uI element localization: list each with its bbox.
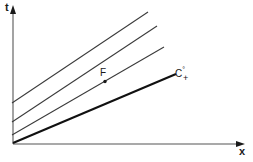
point-markers-group xyxy=(103,80,106,83)
time-axis-label: t xyxy=(5,2,9,13)
physics-diagram: t x F C°+ xyxy=(0,0,253,162)
position-axis-label: x xyxy=(239,146,245,157)
characteristic-line-4-bold xyxy=(13,74,176,143)
point-c-superscript: ° xyxy=(182,66,185,73)
characteristic-lines-group xyxy=(12,12,176,143)
point-f-marker xyxy=(103,80,106,83)
characteristic-line-2 xyxy=(12,26,157,122)
point-c-subscript: + xyxy=(183,74,188,83)
time-axis-arrowhead xyxy=(10,5,16,14)
characteristic-line-3 xyxy=(12,47,164,135)
diagram-canvas xyxy=(0,0,253,162)
point-c-label: C°+ xyxy=(175,67,185,79)
point-f-label: F xyxy=(100,68,106,78)
characteristic-line-1 xyxy=(12,12,148,103)
